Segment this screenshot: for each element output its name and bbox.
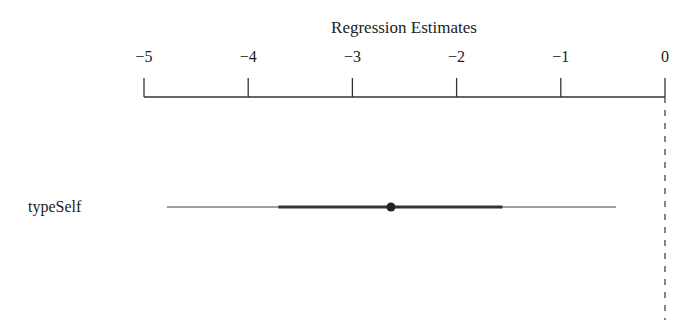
tick-label: −1: [552, 48, 569, 65]
chart-title: Regression Estimates: [331, 18, 477, 37]
x-axis-tick-labels: −5−4−3−2−10: [135, 48, 669, 65]
coefficient-plot: Regression Estimates −5−4−3−2−10 typeSel…: [0, 0, 700, 324]
row-label: typeSelf: [28, 198, 82, 216]
x-axis-ticks: [144, 78, 665, 97]
coefficient-row: typeSelf: [28, 198, 616, 216]
point-estimate: [386, 203, 395, 212]
tick-label: −2: [448, 48, 465, 65]
tick-label: 0: [661, 48, 669, 65]
tick-label: −4: [240, 48, 257, 65]
coefficient-rows: typeSelf: [28, 198, 616, 216]
tick-label: −3: [344, 48, 361, 65]
tick-label: −5: [135, 48, 152, 65]
